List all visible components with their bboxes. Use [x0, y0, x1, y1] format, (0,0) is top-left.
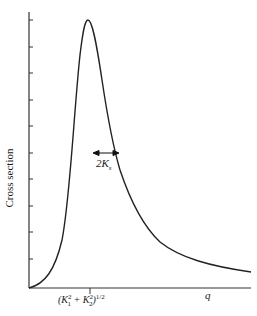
y-axis-label: Cross section [2, 118, 16, 238]
x-axis-label: q [205, 289, 211, 301]
width-annotation-sub: s [109, 164, 112, 172]
y-axis-label-text: Cross section [3, 149, 15, 208]
xtick-part: (K [58, 294, 68, 305]
x-tick-label-peak: (K21 + K22)1/2 [58, 293, 105, 308]
chart-plot [0, 0, 257, 316]
xtick-part: 1/2 [96, 293, 105, 301]
width-annotation-main: 2K [96, 157, 109, 169]
xtick-part: + K [71, 294, 89, 305]
cross-section-curve [29, 20, 251, 288]
width-arrow [93, 151, 119, 156]
width-annotation: 2Ks [96, 157, 112, 172]
